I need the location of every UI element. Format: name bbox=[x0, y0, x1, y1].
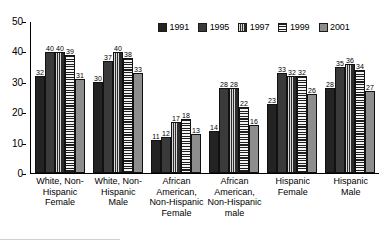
bar-value-label: 23 bbox=[268, 97, 276, 104]
bar-value-label: 18 bbox=[182, 112, 190, 119]
bar-value-label: 28 bbox=[230, 81, 238, 88]
bar-slot: 13 bbox=[191, 22, 201, 173]
bar-2001-0[interactable]: 31 bbox=[75, 79, 85, 173]
bar-slot: 31 bbox=[75, 22, 85, 173]
bar-value-label: 40 bbox=[56, 45, 64, 52]
bar-slot: 32 bbox=[35, 22, 45, 173]
bar-group-0: 3240403931 bbox=[35, 22, 85, 173]
bar-value-label: 14 bbox=[210, 124, 218, 131]
bar-1995-0[interactable]: 40 bbox=[45, 52, 55, 173]
y-tick-20: 20 bbox=[26, 113, 30, 114]
category-label-line: Female bbox=[31, 197, 89, 208]
bars-container: 3240403931303740383311121718131428282216… bbox=[31, 22, 379, 173]
category-label-line: American, bbox=[206, 187, 264, 198]
category-label-5: HispanicMale bbox=[322, 176, 380, 197]
bar-slot: 32 bbox=[297, 22, 307, 173]
bar-slot: 22 bbox=[239, 22, 249, 173]
x-axis-category-labels: White, Non-HispanicFemaleWhite, Non-Hisp… bbox=[31, 176, 380, 218]
bar-slot: 37 bbox=[103, 22, 113, 173]
y-tick-50: 50 bbox=[26, 22, 30, 23]
category-label-1: White, Non-HispanicMale bbox=[89, 176, 147, 208]
bar-1995-1[interactable]: 37 bbox=[103, 61, 113, 173]
category-label-2: AfricanAmerican,Non-HispanicFemale bbox=[147, 176, 205, 218]
bar-value-label: 27 bbox=[366, 84, 374, 91]
bar-slot: 40 bbox=[45, 22, 55, 173]
bar-value-label: 17 bbox=[172, 115, 180, 122]
bar-1999-4[interactable]: 32 bbox=[297, 76, 307, 173]
bar-1995-5[interactable]: 35 bbox=[335, 67, 345, 173]
bar-slot: 11 bbox=[151, 22, 161, 173]
bar-value-label: 28 bbox=[220, 81, 228, 88]
category-label-line: Non-Hispanic bbox=[206, 197, 264, 208]
bar-1991-0[interactable]: 32 bbox=[35, 76, 45, 173]
bar-2001-5[interactable]: 27 bbox=[365, 91, 375, 173]
bar-value-label: 40 bbox=[46, 45, 54, 52]
bar-group-5: 2835363427 bbox=[325, 22, 375, 173]
bar-value-label: 37 bbox=[104, 54, 112, 61]
footer-divider bbox=[0, 239, 120, 240]
bar-1995-4[interactable]: 33 bbox=[277, 73, 287, 173]
bar-value-label: 39 bbox=[66, 48, 74, 55]
bar-slot: 36 bbox=[345, 22, 355, 173]
bar-value-label: 32 bbox=[298, 69, 306, 76]
bar-group-1: 3037403833 bbox=[93, 22, 143, 173]
y-tick-30: 30 bbox=[26, 83, 30, 84]
bar-slot: 30 bbox=[93, 22, 103, 173]
y-tick-label: 20 bbox=[12, 108, 23, 118]
bar-2001-3[interactable]: 16 bbox=[249, 125, 259, 173]
bar-1997-3[interactable]: 28 bbox=[229, 88, 239, 173]
bar-1999-2[interactable]: 18 bbox=[181, 119, 191, 173]
category-label-line: Male bbox=[322, 187, 380, 198]
bar-1999-1[interactable]: 38 bbox=[123, 58, 133, 173]
category-label-line: Female bbox=[147, 208, 205, 219]
x-axis-line bbox=[30, 173, 379, 174]
bar-1997-2[interactable]: 17 bbox=[171, 122, 181, 173]
bar-1991-4[interactable]: 23 bbox=[267, 104, 277, 173]
bar-1997-4[interactable]: 32 bbox=[287, 76, 297, 173]
bar-group-3: 1428282216 bbox=[209, 22, 259, 173]
bar-value-label: 40 bbox=[114, 45, 122, 52]
bar-1991-3[interactable]: 14 bbox=[209, 131, 219, 173]
bar-1997-5[interactable]: 36 bbox=[345, 64, 355, 173]
bar-value-label: 31 bbox=[76, 72, 84, 79]
bar-slot: 40 bbox=[55, 22, 65, 173]
category-label-0: White, Non-HispanicFemale bbox=[31, 176, 89, 208]
category-label-line: Female bbox=[264, 187, 322, 198]
y-tick-label: 30 bbox=[12, 78, 23, 88]
bar-1991-2[interactable]: 11 bbox=[151, 140, 161, 173]
bar-1991-1[interactable]: 30 bbox=[93, 82, 103, 173]
category-label-line: American, bbox=[147, 187, 205, 198]
bar-value-label: 36 bbox=[346, 57, 354, 64]
bar-1999-5[interactable]: 34 bbox=[355, 70, 365, 173]
bar-2001-4[interactable]: 26 bbox=[307, 94, 317, 173]
bar-value-label: 28 bbox=[326, 81, 334, 88]
bar-slot: 40 bbox=[113, 22, 123, 173]
bar-slot: 35 bbox=[335, 22, 345, 173]
category-label-line: White, Non- bbox=[31, 176, 89, 187]
bar-1991-5[interactable]: 28 bbox=[325, 88, 335, 173]
bar-2001-1[interactable]: 33 bbox=[133, 73, 143, 173]
bar-slot: 14 bbox=[209, 22, 219, 173]
bar-2001-2[interactable]: 13 bbox=[191, 134, 201, 173]
category-label-line: Male bbox=[89, 197, 147, 208]
bar-1999-0[interactable]: 39 bbox=[65, 55, 75, 173]
category-label-line: Hispanic bbox=[322, 176, 380, 187]
bar-1997-0[interactable]: 40 bbox=[55, 52, 65, 173]
bar-slot: 28 bbox=[325, 22, 335, 173]
bar-slot: 38 bbox=[123, 22, 133, 173]
bar-slot: 17 bbox=[171, 22, 181, 173]
bar-value-label: 30 bbox=[94, 75, 102, 82]
bar-value-label: 16 bbox=[250, 118, 258, 125]
bar-1997-1[interactable]: 40 bbox=[113, 52, 123, 173]
bar-1995-2[interactable]: 12 bbox=[161, 137, 171, 173]
category-label-line: White, Non- bbox=[89, 176, 147, 187]
bar-value-label: 26 bbox=[308, 87, 316, 94]
bar-slot: 34 bbox=[355, 22, 365, 173]
bar-slot: 16 bbox=[249, 22, 259, 173]
y-tick-40: 40 bbox=[26, 52, 30, 53]
bar-slot: 18 bbox=[181, 22, 191, 173]
bar-1999-3[interactable]: 22 bbox=[239, 107, 249, 173]
bar-value-label: 34 bbox=[356, 63, 364, 70]
bar-1995-3[interactable]: 28 bbox=[219, 88, 229, 173]
bar-slot: 33 bbox=[133, 22, 143, 173]
